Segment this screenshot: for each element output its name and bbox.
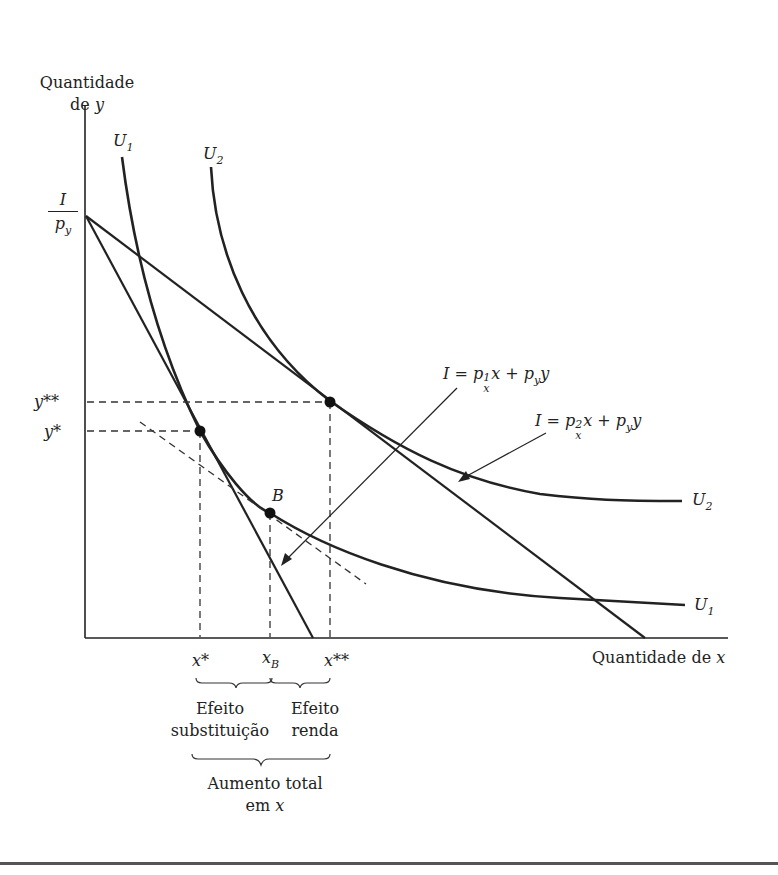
label-point-b: B [272, 488, 284, 504]
label-u1-right: U1 [694, 597, 714, 613]
y-axis-label: Quantidade de y [34, 75, 140, 113]
label-u1-top-sub: 1 [126, 141, 133, 154]
label-income-effect: Efeito renda [280, 698, 350, 742]
indifference-curve-u2 [211, 167, 682, 501]
intercept-numerator: I [48, 190, 78, 212]
label-u1-right-main: U [694, 595, 707, 614]
point-new-optimum [325, 397, 336, 408]
tick-x-star: x* [192, 653, 209, 669]
label-u2-top: U2 [203, 146, 223, 162]
label-substitution-effect: Efeito substituição [160, 698, 280, 742]
bottom-rule [0, 862, 778, 865]
x-axis-label-text: Quantidade de [592, 648, 711, 667]
label-u1-top-main: U [113, 131, 126, 150]
equation-budget-2: I = p2xx + pyy [535, 413, 641, 429]
substitution-line1: Efeito [196, 699, 244, 718]
label-u2-top-sub: 2 [216, 154, 223, 167]
tick-y-star: y* [44, 424, 61, 440]
point-initial-optimum [195, 426, 206, 437]
x-axis-label: Quantidade de x [592, 650, 725, 666]
label-u1-right-sub: 1 [707, 605, 714, 618]
total-line2: em [246, 796, 271, 815]
label-u2-right: U2 [692, 492, 712, 508]
tick-y-double-star: y** [34, 394, 59, 410]
eq1-rest: x + p [491, 364, 534, 383]
substitution-line2: substituição [171, 721, 270, 740]
label-u2-top-main: U [203, 144, 216, 163]
eq1-tail: y [540, 364, 549, 383]
y-axis-var: y [95, 95, 104, 114]
eq2-sub: x [575, 430, 581, 441]
tick-x-b-main: x [262, 648, 271, 667]
intercept-denominator-sub: y [65, 224, 71, 237]
total-var: x [275, 796, 284, 815]
brace-income [270, 678, 330, 688]
x-axis-var: x [716, 648, 725, 667]
eq2-lhs: I = p [535, 411, 575, 430]
brace-substitution [196, 678, 272, 688]
income-line1: Efeito [291, 699, 339, 718]
leader-line-budget-2 [465, 433, 546, 477]
leader-line-budget-1 [286, 388, 457, 560]
tick-x-b-sub: B [271, 658, 279, 671]
label-u2-right-main: U [692, 490, 705, 509]
equation-budget-1: I = p1xx + pyy [443, 366, 549, 382]
eq2-rest: x + p [583, 411, 626, 430]
indifference-curve-u1 [122, 157, 685, 605]
brace-total [192, 754, 330, 765]
label-u2-right-sub: 2 [705, 500, 712, 513]
total-line1: Aumento total [207, 774, 322, 793]
tick-x-double-star: x** [324, 653, 349, 669]
eq1-lhs: I = p [443, 364, 483, 383]
intercept-denominator: p [55, 214, 65, 233]
label-u1-top: U1 [113, 133, 133, 149]
intercept-label: I py [48, 190, 78, 233]
income-line2: renda [291, 721, 338, 740]
eq1-sub: x [483, 383, 489, 394]
eq1-rest-sub: y [534, 374, 540, 387]
eq2-tail: y [632, 411, 641, 430]
y-axis-label-line1: Quantidade [40, 73, 134, 92]
eq2-rest-sub: y [626, 421, 632, 434]
tick-x-b: xB [262, 650, 279, 666]
point-b [265, 508, 276, 519]
label-total-increase: Aumento total em x [190, 773, 340, 817]
y-axis-label-line2: de [70, 95, 90, 114]
